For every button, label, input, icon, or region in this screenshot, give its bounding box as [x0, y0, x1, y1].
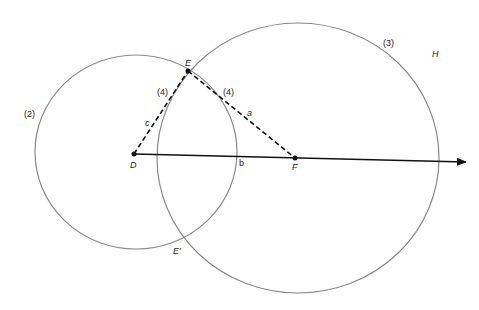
label-step-4-left: (4) [157, 87, 168, 97]
label-step-4-right: (4) [223, 87, 234, 97]
point-e [186, 69, 191, 74]
label-point-e-prime: E′ [173, 246, 181, 256]
segment-c-dashed [134, 71, 188, 154]
label-step-3: (3) [383, 38, 394, 48]
label-segment-c: c [145, 118, 150, 128]
point-f [293, 156, 298, 161]
segment-a-dashed [188, 71, 295, 158]
label-point-e: E [185, 58, 192, 68]
triangle-construction-diagram: D E E′ F H a b c (2) (3) (4) (4) [0, 0, 479, 310]
label-step-2: (2) [24, 109, 35, 119]
label-segment-b: b [239, 158, 244, 168]
label-region-h: H [432, 49, 439, 59]
label-segment-a: a [247, 108, 252, 118]
ray-line-b [134, 154, 466, 162]
label-point-f: F [292, 162, 298, 172]
label-point-d: D [130, 160, 137, 170]
point-d [132, 152, 137, 157]
